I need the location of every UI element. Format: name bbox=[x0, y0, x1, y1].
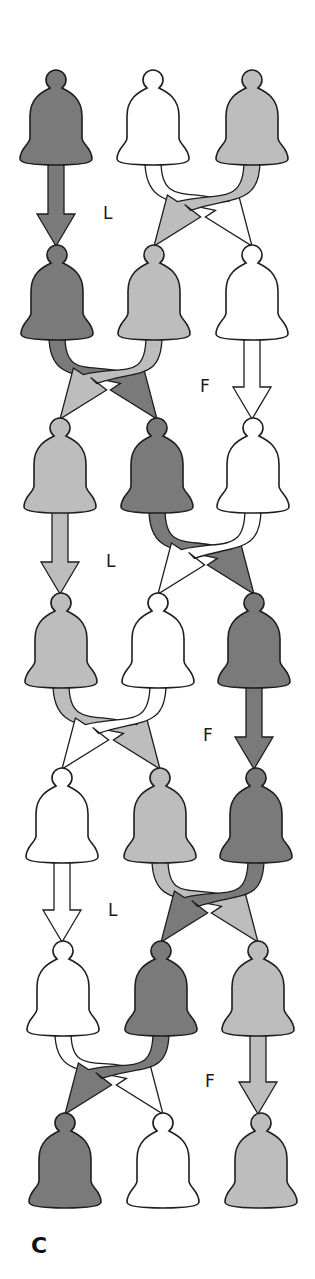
bell-icon-dark bbox=[220, 768, 292, 863]
bell-row-2 bbox=[21, 245, 288, 340]
transition-label-l: L bbox=[103, 205, 112, 222]
bell-icon-white bbox=[127, 1113, 199, 1208]
bell-icon-white bbox=[117, 70, 189, 165]
straight-arrow bbox=[43, 859, 81, 942]
bell-row-3 bbox=[24, 418, 289, 513]
bell-change-ringing-diagram bbox=[0, 0, 315, 1279]
bell-icon-light bbox=[118, 245, 190, 340]
transition-1-arrows bbox=[37, 161, 260, 246]
transition-6-arrows bbox=[55, 1032, 277, 1114]
transition-label-l: L bbox=[106, 553, 115, 570]
straight-arrow bbox=[41, 509, 79, 594]
bell-row-5 bbox=[26, 768, 292, 863]
panel-caption: C bbox=[31, 1235, 47, 1257]
straight-arrow bbox=[235, 684, 273, 769]
straight-arrow bbox=[233, 336, 271, 419]
straight-arrow bbox=[239, 1032, 277, 1114]
bell-icon-dark bbox=[125, 941, 197, 1036]
transition-2-arrows bbox=[49, 336, 271, 419]
bell-icon-white bbox=[122, 593, 194, 688]
bell-icon-light bbox=[225, 1113, 297, 1208]
bell-icon-dark bbox=[20, 70, 92, 165]
bell-icon-light bbox=[25, 593, 97, 688]
bell-icon-white bbox=[26, 768, 98, 863]
bell-icon-light bbox=[222, 941, 294, 1036]
bell-icon-white bbox=[217, 418, 289, 513]
bell-icon-dark bbox=[29, 1113, 101, 1208]
bell-row-4 bbox=[25, 593, 290, 688]
transition-label-l: L bbox=[108, 902, 117, 919]
bell-icon-light bbox=[216, 70, 288, 165]
straight-arrow bbox=[37, 161, 75, 246]
transition-label-f: F bbox=[205, 1073, 215, 1090]
transition-5-arrows bbox=[43, 859, 264, 942]
bell-icon-dark bbox=[21, 245, 93, 340]
bell-row-6 bbox=[27, 941, 294, 1036]
bell-icon-light bbox=[124, 768, 196, 863]
transition-4-arrows bbox=[53, 684, 273, 769]
bell-icon-white bbox=[216, 245, 288, 340]
bell-icon-white bbox=[27, 941, 99, 1036]
transition-3-arrows bbox=[41, 509, 261, 594]
bell-icon-dark bbox=[218, 593, 290, 688]
transition-label-f: F bbox=[203, 727, 213, 744]
bell-icon-light bbox=[24, 418, 96, 513]
transition-label-f: F bbox=[200, 378, 210, 395]
bell-icon-dark bbox=[121, 418, 193, 513]
bell-row-1 bbox=[20, 70, 288, 165]
bell-row-7 bbox=[29, 1113, 297, 1208]
